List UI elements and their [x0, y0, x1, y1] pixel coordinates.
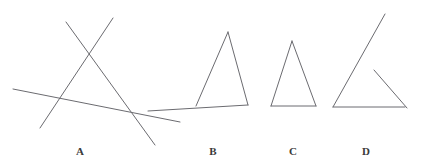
figure-label-b: B — [203, 146, 223, 157]
figure-c-left-side — [271, 41, 292, 106]
figure-b-base-extended — [148, 105, 248, 111]
figure-label-c: C — [283, 146, 303, 157]
geometry-figures-canvas — [0, 0, 423, 168]
figure-a-right-falling-line — [66, 22, 155, 145]
figure-d-right-short-line — [374, 70, 407, 108]
figure-a-left-rising-line — [40, 18, 113, 128]
figure-b-right-side — [228, 32, 248, 105]
figure-b-group — [148, 32, 248, 111]
figure-label-d: D — [356, 146, 376, 157]
figure-a-base-slanted-line — [13, 89, 180, 122]
figure-a-group — [13, 18, 180, 145]
figure-label-a: A — [70, 146, 90, 157]
figure-c-group — [271, 41, 316, 106]
figure-d-group — [333, 14, 407, 108]
figure-sheet: A B C D — [0, 0, 423, 168]
figure-b-left-side — [196, 32, 228, 106]
figure-d-left-long-line — [333, 14, 385, 107]
figure-c-right-side — [292, 41, 316, 106]
